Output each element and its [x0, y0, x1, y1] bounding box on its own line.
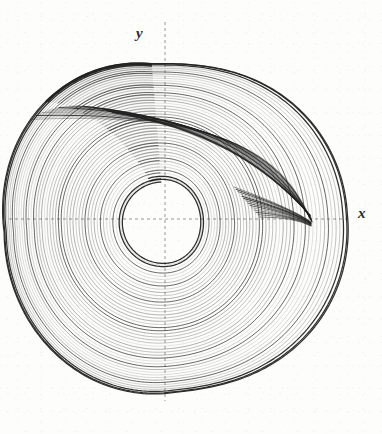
attractor-loop [73, 131, 247, 315]
attractor-loop [110, 167, 212, 276]
y-axis-label: y [136, 26, 143, 41]
attractor-loop [113, 170, 209, 273]
attractor-loop [7, 66, 340, 389]
attractor-plot [0, 0, 382, 434]
attractor-loop [116, 173, 206, 270]
attractor-loop [47, 106, 276, 343]
attractor-figure: y x [0, 0, 382, 434]
attractor-loop [91, 149, 229, 296]
attractor-trajectory [3, 63, 349, 394]
x-axis-label: x [358, 206, 366, 221]
attractor-loop [14, 74, 324, 381]
attractor-loop [64, 123, 256, 325]
attractor-loop [44, 103, 279, 346]
